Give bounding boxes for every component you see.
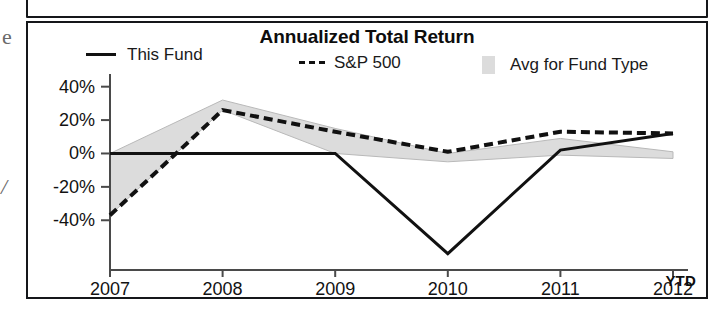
x-axis-tick-label: 2009 [315,279,355,299]
x-axis-tick-label: 2007 [90,279,130,299]
series-area-avg-for-fund-type [110,100,673,215]
y-axis-tick-label: 40% [59,77,95,97]
x-axis-tick-label: 2008 [203,279,243,299]
y-axis-tick-label: -40% [53,210,95,230]
x-axis-tick-label: 2011 [541,279,580,299]
margin-artifact-glyph-mid: / [1,176,7,198]
x-axis-tick-label: 2010 [428,279,468,299]
x-axis-ytd-label: YTD [665,272,696,289]
annualized-total-return-chart-panel: Annualized Total Return This Fund S&P 50… [26,21,708,299]
plot-area: 40%20%0%-20%-40%200720082009201020112012 [28,23,710,301]
margin-artifact-glyph-top: e [2,26,12,48]
y-axis-tick-label: 0% [69,143,95,163]
chart-canvas: 40%20%0%-20%-40%200720082009201020112012 [28,23,710,301]
y-axis-tick-label: 20% [59,110,95,130]
adjacent-panel-fragment [26,0,708,18]
scanned-page: e / Annualized Total Return This Fund S&… [0,0,712,321]
y-axis-tick-label: -20% [53,177,95,197]
